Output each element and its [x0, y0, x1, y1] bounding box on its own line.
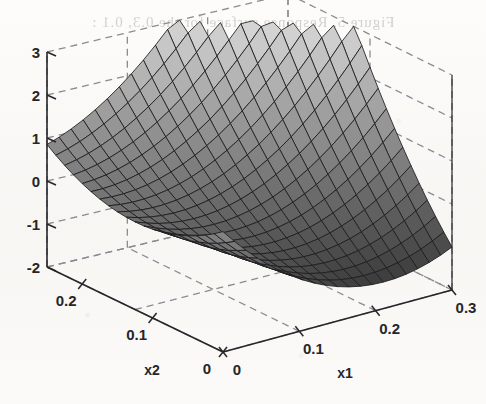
x1-tick-label: 0	[233, 361, 241, 378]
x1-tick-label: 0.3	[456, 299, 477, 316]
figure-3d-surface-plot: Figure 5. Response surface for the 0.3, …	[0, 0, 486, 404]
x1-tick-label: 0.1	[303, 340, 324, 357]
surface-mesh	[47, 20, 452, 287]
x1-axis-line	[223, 290, 452, 352]
z-tick-label: 3	[32, 44, 40, 61]
z-tick-label: 0	[32, 173, 40, 190]
x1-tick-label: 0.2	[379, 320, 400, 337]
z-tick	[47, 267, 56, 271]
x2-tick-label: 0	[203, 360, 211, 377]
z-tick	[47, 224, 56, 228]
z-tick-label: -2	[27, 259, 40, 276]
x2-axis-title: x2	[144, 362, 160, 378]
x2-tick	[149, 313, 157, 323]
z-tick-label: -1	[27, 216, 40, 233]
x2-tick	[78, 279, 86, 289]
z-tick	[47, 52, 56, 56]
z-tick-label: 2	[32, 87, 40, 104]
x2-tick-label: 0.2	[56, 292, 77, 309]
x2-tick-label: 0.1	[126, 326, 147, 343]
z-tick	[47, 181, 56, 185]
surface-plot-canvas: 3210-1-200.10.20.300.10.2x2x1	[0, 0, 486, 404]
z-tick-label: 1	[32, 130, 40, 147]
x1-axis-title: x1	[337, 365, 353, 381]
z-tick	[47, 95, 56, 99]
